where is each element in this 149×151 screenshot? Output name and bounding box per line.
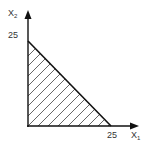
y-axis-arrow-icon (25, 10, 32, 19)
hatch-fill (28, 0, 149, 126)
y-axis-label: X2 (8, 9, 17, 19)
y-axis-tick-label: 25 (8, 31, 18, 40)
x-axis-label: X1 (131, 131, 140, 141)
x-axis-label-sub: 1 (137, 135, 140, 141)
y-axis-label-sub: 2 (14, 13, 17, 19)
x-axis-tick-label: 25 (107, 131, 117, 140)
x-axis-arrow-icon (130, 123, 139, 130)
feasible-region-diagram (0, 0, 149, 151)
